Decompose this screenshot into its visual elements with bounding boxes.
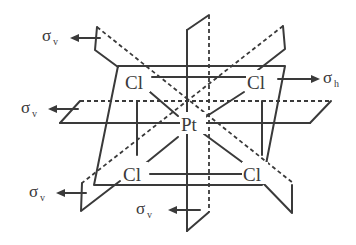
- atom-pt-center: Pt: [181, 114, 198, 135]
- svg-text:h: h: [334, 78, 339, 89]
- svg-text:v: v: [147, 209, 152, 220]
- label-sigma-h: σ: [323, 68, 332, 87]
- svg-text:v: v: [32, 108, 37, 119]
- label-sigma-v-top-left: σ: [42, 26, 51, 45]
- atom-cl-bottom-left: Cl: [123, 164, 141, 185]
- svg-text:v: v: [40, 192, 45, 203]
- atom-cl-top-left: Cl: [125, 72, 143, 93]
- symmetry-diagram: Cl Cl Pt Cl Cl σ v σ h σ v σ v: [0, 0, 356, 245]
- label-sigma-v-mid-left: σ: [21, 98, 30, 117]
- label-sigma-v-bottom-center: σ: [136, 199, 145, 218]
- atom-cl-top-right: Cl: [247, 72, 265, 93]
- svg-text:v: v: [53, 36, 58, 47]
- atoms: Cl Cl Pt Cl Cl: [122, 70, 272, 185]
- atom-cl-bottom-right: Cl: [243, 164, 261, 185]
- label-sigma-v-bottom-left: σ: [29, 182, 38, 201]
